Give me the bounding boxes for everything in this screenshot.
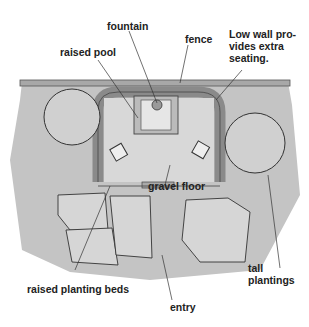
label-low-wall-line2: vides extra: [229, 40, 296, 52]
label-gravel-floor: gravel floor: [148, 180, 205, 192]
fountain-icon: [152, 100, 162, 110]
planting-bed: [110, 196, 152, 258]
planting-bed: [182, 198, 250, 262]
tall-planting: [44, 89, 100, 145]
label-low-wall: Low wall pro- vides extra seating.: [229, 28, 296, 64]
fence: [20, 80, 290, 86]
label-raised-pool: raised pool: [60, 46, 116, 58]
tall-planting: [225, 113, 285, 173]
label-tall-line1: tall: [248, 262, 295, 274]
planting-bed: [58, 193, 108, 230]
label-entry: entry: [170, 301, 196, 313]
label-fence: fence: [185, 33, 212, 45]
label-raised-planting-beds: raised planting beds: [27, 283, 129, 295]
label-tall-plantings: tall plantings: [248, 262, 295, 286]
label-tall-line2: plantings: [248, 274, 295, 286]
label-low-wall-line3: seating.: [229, 52, 296, 64]
label-low-wall-line1: Low wall pro-: [229, 28, 296, 40]
garden-diagram: fountain raised pool fence Low wall pro-…: [0, 0, 309, 327]
planting-bed: [66, 228, 118, 265]
label-fountain: fountain: [107, 20, 148, 32]
